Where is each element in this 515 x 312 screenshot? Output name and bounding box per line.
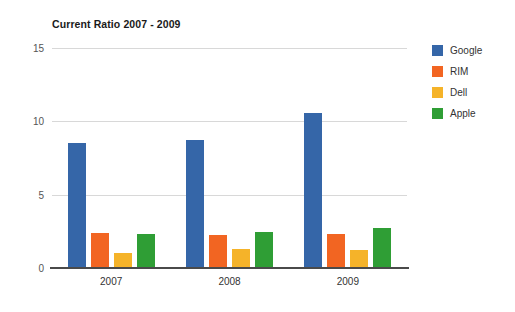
- legend-item-apple[interactable]: Apple: [432, 107, 482, 119]
- bar-apple-2007[interactable]: [137, 234, 155, 268]
- bar-chart: Current Ratio 2007 - 2009 051015 2007200…: [0, 0, 515, 312]
- x-tick-label: 2007: [100, 276, 122, 287]
- legend-label: RIM: [450, 66, 468, 77]
- x-axis: 200720082009: [52, 276, 407, 294]
- chart-title: Current Ratio 2007 - 2009: [52, 18, 181, 30]
- y-tick-label: 5: [38, 189, 44, 200]
- bar-rim-2007[interactable]: [91, 233, 109, 268]
- bar-google-2007[interactable]: [68, 143, 86, 268]
- y-tick-label: 15: [33, 43, 44, 54]
- y-tick-label: 10: [33, 116, 44, 127]
- legend-swatch-icon: [432, 87, 443, 98]
- bar-dell-2009[interactable]: [350, 250, 368, 268]
- bar-google-2008[interactable]: [186, 140, 204, 268]
- bar-rim-2008[interactable]: [209, 235, 227, 268]
- plot-area: [52, 48, 407, 268]
- bar-dell-2008[interactable]: [232, 249, 250, 268]
- legend-item-rim[interactable]: RIM: [432, 65, 482, 77]
- y-tick-label: 0: [38, 263, 44, 274]
- bar-group: [186, 48, 273, 268]
- bar-apple-2009[interactable]: [373, 228, 391, 268]
- legend-item-google[interactable]: Google: [432, 44, 482, 56]
- bar-dell-2007[interactable]: [114, 253, 132, 268]
- bar-google-2009[interactable]: [304, 113, 322, 268]
- legend-label: Google: [450, 45, 482, 56]
- legend-label: Apple: [450, 108, 476, 119]
- legend-label: Dell: [450, 87, 467, 98]
- legend-swatch-icon: [432, 45, 443, 56]
- legend-item-dell[interactable]: Dell: [432, 86, 482, 98]
- bar-group: [68, 48, 155, 268]
- bar-group: [304, 48, 391, 268]
- legend-swatch-icon: [432, 66, 443, 77]
- bar-rim-2009[interactable]: [327, 234, 345, 268]
- legend-swatch-icon: [432, 108, 443, 119]
- x-axis-line: [50, 267, 409, 269]
- bar-apple-2008[interactable]: [255, 232, 273, 268]
- y-axis: 051015: [0, 48, 44, 268]
- legend: GoogleRIMDellApple: [432, 44, 482, 128]
- x-tick-label: 2009: [337, 276, 359, 287]
- x-tick-label: 2008: [218, 276, 240, 287]
